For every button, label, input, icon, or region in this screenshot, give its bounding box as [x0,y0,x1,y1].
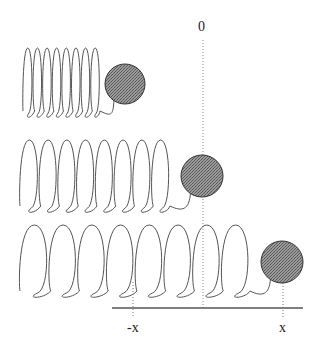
spring-equilibrium [20,140,191,212]
mass-ball-equilibrium [181,155,223,197]
spring-mass-diagram: 0 -x x [0,0,317,354]
pos-x-label: x [279,320,286,335]
neg-x-label: -x [127,320,139,335]
spring-stretched [19,225,270,297]
mass-ball-stretched [261,241,303,283]
mass-ball-compressed [105,64,145,104]
zero-label: 0 [198,19,205,34]
spring-compressed [23,48,114,117]
